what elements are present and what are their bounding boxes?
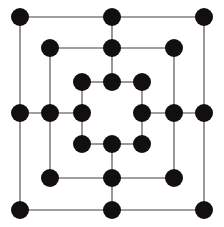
graph-node-i-tr[interactable] — [133, 73, 151, 91]
graph-node-o-bc[interactable] — [103, 201, 121, 219]
graph-diagram — [0, 0, 224, 227]
graph-node-o-br[interactable] — [195, 201, 213, 219]
graph-node-m-mr[interactable] — [165, 104, 183, 122]
graph-node-o-bl[interactable] — [11, 201, 29, 219]
graph-node-i-tl[interactable] — [73, 73, 91, 91]
graph-canvas — [0, 0, 224, 227]
graph-node-o-tr[interactable] — [195, 8, 213, 26]
graph-node-o-ml[interactable] — [11, 104, 29, 122]
graph-node-o-tc[interactable] — [103, 8, 121, 26]
graph-node-m-tr[interactable] — [165, 39, 183, 57]
graph-node-m-br[interactable] — [165, 169, 183, 187]
graph-node-o-mr[interactable] — [195, 104, 213, 122]
graph-node-m-bc[interactable] — [103, 169, 121, 187]
graph-node-i-mr[interactable] — [133, 104, 151, 122]
graph-node-i-br[interactable] — [133, 135, 151, 153]
graph-node-m-bl[interactable] — [41, 169, 59, 187]
graph-node-m-ml[interactable] — [41, 104, 59, 122]
graph-node-i-ml[interactable] — [73, 104, 91, 122]
graph-node-m-tc[interactable] — [103, 39, 121, 57]
graph-node-i-bc[interactable] — [103, 135, 121, 153]
graph-node-m-tl[interactable] — [41, 39, 59, 57]
graph-node-i-tc[interactable] — [103, 73, 121, 91]
graph-node-i-bl[interactable] — [73, 135, 91, 153]
graph-node-o-tl[interactable] — [11, 8, 29, 26]
